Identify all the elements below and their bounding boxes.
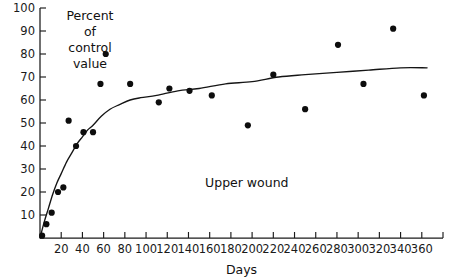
- y-tick-label: 90: [20, 24, 35, 38]
- data-point: [186, 88, 192, 94]
- x-tick-label: 200: [241, 242, 263, 256]
- x-tick-label: 60: [96, 242, 111, 256]
- data-point: [60, 184, 66, 190]
- x-tick-label: 80: [118, 242, 133, 256]
- x-tick-label: 160: [199, 242, 221, 256]
- y-tick-label: 10: [20, 208, 35, 222]
- data-point: [166, 85, 172, 91]
- y-axis-title-line: control: [68, 40, 111, 55]
- y-tick-label: 20: [20, 185, 35, 199]
- x-tick-label: 260: [305, 242, 327, 256]
- y-tick-label: 60: [20, 93, 35, 107]
- y-tick-label: 50: [20, 116, 35, 130]
- data-point: [43, 221, 49, 227]
- x-tick-label: 20: [54, 242, 69, 256]
- data-point: [66, 118, 72, 124]
- x-tick-label: 140: [177, 242, 199, 256]
- data-point: [156, 99, 162, 105]
- y-axis-title-line: of: [84, 24, 97, 39]
- y-tick-label: 70: [20, 70, 35, 84]
- data-point: [39, 233, 45, 239]
- x-tick-label: 120: [156, 242, 178, 256]
- data-point: [390, 26, 396, 32]
- x-tick-label: 220: [262, 242, 284, 256]
- x-axis-title: Days: [226, 262, 257, 277]
- x-tick-label: 300: [347, 242, 369, 256]
- y-axis-title-line: value: [73, 56, 107, 71]
- data-point: [270, 72, 276, 78]
- data-point: [335, 42, 341, 48]
- y-tick-label: 30: [20, 162, 35, 176]
- data-point: [55, 189, 61, 195]
- x-tick-label: 40: [75, 242, 90, 256]
- data-point: [127, 81, 133, 87]
- data-point: [245, 122, 251, 128]
- data-point: [97, 81, 103, 87]
- data-point: [49, 210, 55, 216]
- scatter-plot-canvas: 1020304050607080901002040608010012014016…: [0, 0, 451, 280]
- fit-curve: [40, 68, 427, 238]
- data-point: [80, 129, 86, 135]
- y-tick-label: 100: [13, 1, 35, 15]
- data-point: [360, 81, 366, 87]
- x-tick-label: 340: [390, 242, 412, 256]
- chart-figure: 1020304050607080901002040608010012014016…: [0, 0, 451, 280]
- data-point: [421, 92, 427, 98]
- y-tick-label: 40: [20, 139, 35, 153]
- x-tick-label: 280: [326, 242, 348, 256]
- y-axis-title-line: Percent: [66, 8, 113, 23]
- x-tick-label: 180: [220, 242, 242, 256]
- data-point: [209, 92, 215, 98]
- plot-annotation: Upper wound: [205, 175, 288, 190]
- x-tick-label: 360: [411, 242, 433, 256]
- x-tick-label: 320: [368, 242, 390, 256]
- x-tick-label: 100: [135, 242, 157, 256]
- data-point: [73, 143, 79, 149]
- data-point: [90, 129, 96, 135]
- data-point: [302, 106, 308, 112]
- x-tick-label: 240: [284, 242, 306, 256]
- y-tick-label: 80: [20, 47, 35, 61]
